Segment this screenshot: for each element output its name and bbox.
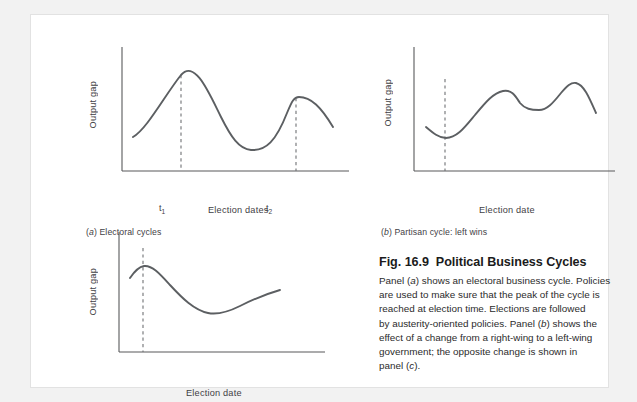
panel-b-plot xyxy=(413,45,618,205)
panel-b-y-axis-label: Output gap xyxy=(383,79,393,126)
panel-a-y-axis-label: Output gap xyxy=(88,81,98,128)
panel-b-partisan-left-wins: Output gap Election date (b) Partisan cy… xyxy=(381,45,626,215)
panel-c-y-axis-label: Output gap xyxy=(88,268,98,315)
panel-b-caption: (b) Partisan cycle: left wins xyxy=(381,227,487,237)
figure-caption-block: Fig. 16.9 Political Business Cycles Pane… xyxy=(379,255,631,373)
panel-a-x-axis-label: Election dates xyxy=(208,205,269,215)
panel-a-electoral-cycles: Output gap t1 t2 Election dates (a) Elec… xyxy=(86,45,351,215)
panel-b-x-axis-label: Election date xyxy=(479,205,535,215)
panel-c-partisan-right-wins: Output gap Election date (c) Partisan cy… xyxy=(86,230,336,400)
figure-card: Output gap t1 t2 Election dates (a) Elec… xyxy=(30,14,609,388)
panel-c-output-gap-curve xyxy=(130,266,280,314)
figure-title: Political Business Cycles xyxy=(436,255,587,269)
panel-a-output-gap-curve xyxy=(133,71,333,150)
panel-a-plot xyxy=(121,45,351,205)
panel-c-x-axis-label: Election date xyxy=(186,388,242,398)
panel-b-caption-text: Partisan cycle: left wins xyxy=(394,227,487,237)
figure-caption-body: Panel (a) shows an electoral business cy… xyxy=(379,274,631,373)
panel-a-tick-t1: t1 xyxy=(159,203,165,215)
panel-c-plot xyxy=(118,230,328,390)
figure-caption-heading: Fig. 16.9 Political Business Cycles xyxy=(379,255,631,269)
panel-b-output-gap-curve xyxy=(426,83,596,138)
figure-number: Fig. 16.9 xyxy=(379,255,429,269)
